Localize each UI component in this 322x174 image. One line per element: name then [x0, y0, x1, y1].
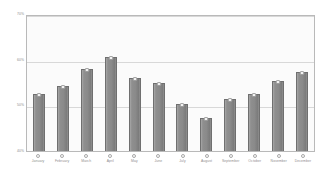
x-tick-marker-icon — [156, 154, 160, 158]
x-axis-tick-label: April — [107, 160, 114, 163]
x-axis-tick-label: November — [271, 160, 287, 163]
x-axis-tick: October — [243, 152, 267, 163]
y-axis-tick-label: 60% — [2, 59, 24, 62]
x-axis-tick-label: September — [222, 160, 240, 163]
x-axis-tick-label: January — [32, 160, 45, 163]
bar[interactable] — [57, 86, 69, 151]
x-tick-marker-icon — [205, 154, 209, 158]
bar-top-marker-icon — [156, 82, 161, 86]
x-axis-tick-label: October — [248, 160, 261, 163]
bar-top-marker-icon — [276, 80, 281, 84]
bar-slot — [290, 16, 314, 151]
x-axis: JanuaryFebruaryMarchAprilMayJuneJulyAugu… — [26, 152, 315, 174]
x-tick-marker-icon — [108, 154, 112, 158]
x-axis-tick: January — [26, 152, 50, 163]
x-axis-tick-label: March — [81, 160, 91, 163]
x-tick-marker-icon — [60, 154, 64, 158]
bar-slot — [27, 16, 51, 151]
x-axis-tick-label: December — [295, 160, 311, 163]
x-tick-marker-icon — [181, 154, 185, 158]
bar[interactable] — [296, 72, 308, 151]
bar-top-marker-icon — [180, 103, 185, 107]
x-axis-tick: March — [74, 152, 98, 163]
bar[interactable] — [272, 81, 284, 151]
bar[interactable] — [105, 57, 117, 151]
x-tick-marker-icon — [253, 154, 257, 158]
bar-slot — [266, 16, 290, 151]
bar[interactable] — [153, 83, 165, 151]
x-axis-tick-label: August — [201, 160, 212, 163]
bar-top-marker-icon — [36, 93, 41, 97]
x-tick-marker-icon — [277, 154, 281, 158]
bar-top-marker-icon — [228, 98, 233, 102]
bar-top-marker-icon — [300, 71, 305, 75]
x-axis-tick: April — [98, 152, 122, 163]
bar-top-marker-icon — [84, 68, 89, 72]
x-axis-tick: November — [267, 152, 291, 163]
y-axis-tick-label: 70% — [2, 13, 24, 16]
x-axis-tick: July — [170, 152, 194, 163]
bar-slot — [147, 16, 171, 151]
bar-slot — [75, 16, 99, 151]
bar-slot — [51, 16, 75, 151]
plot-area — [26, 15, 315, 152]
bar-slot — [242, 16, 266, 151]
x-axis-tick-label: June — [155, 160, 163, 163]
bar[interactable] — [200, 118, 212, 151]
bar-top-marker-icon — [252, 93, 257, 97]
x-axis-tick: June — [146, 152, 170, 163]
x-axis-tick-label: February — [55, 160, 69, 163]
bar-top-marker-icon — [204, 117, 209, 121]
x-tick-marker-icon — [229, 154, 233, 158]
y-axis-tick-label: 50% — [2, 105, 24, 108]
x-axis-tick: May — [122, 152, 146, 163]
bar-top-marker-icon — [60, 85, 65, 89]
bar[interactable] — [33, 94, 45, 151]
bar-slot — [123, 16, 147, 151]
bar-slot — [99, 16, 123, 151]
x-tick-marker-icon — [84, 154, 88, 158]
bar-chart: 70%60%50%40% JanuaryFebruaryMarchAprilMa… — [0, 0, 322, 174]
bar-top-marker-icon — [132, 77, 137, 81]
x-axis-tick: February — [50, 152, 74, 163]
x-axis-tick-label: May — [131, 160, 138, 163]
y-axis-tick-label: 40% — [2, 150, 24, 153]
x-tick-marker-icon — [301, 154, 305, 158]
bar[interactable] — [81, 69, 93, 151]
bar-top-marker-icon — [108, 56, 113, 60]
bars-container — [27, 16, 314, 151]
bar[interactable] — [248, 94, 260, 151]
bar[interactable] — [224, 99, 236, 151]
x-axis-tick: September — [219, 152, 243, 163]
x-tick-marker-icon — [132, 154, 136, 158]
bar[interactable] — [129, 78, 141, 151]
bar-slot — [171, 16, 195, 151]
x-axis-tick: December — [291, 152, 315, 163]
bar-slot — [218, 16, 242, 151]
bar-slot — [194, 16, 218, 151]
bar[interactable] — [176, 104, 188, 151]
x-axis-tick-label: July — [179, 160, 185, 163]
x-tick-marker-icon — [36, 154, 40, 158]
x-axis-tick: August — [195, 152, 219, 163]
